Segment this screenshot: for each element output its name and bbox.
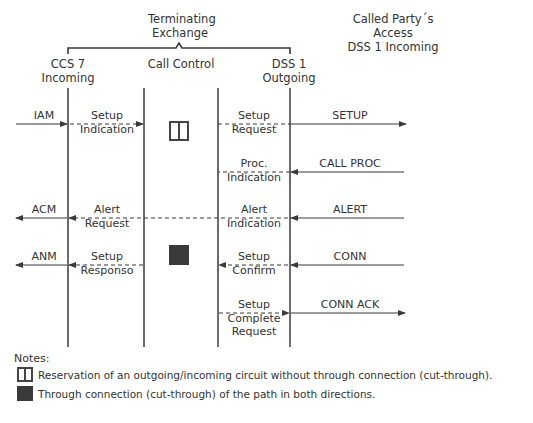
msg-line: Request: [220, 123, 288, 136]
msg-setup-confirm: Setup Confirm: [220, 250, 288, 277]
msg-line: Confirm: [220, 264, 288, 277]
called-party-label: Called Party´s Access DSS 1 Incoming: [338, 12, 448, 54]
through-connection-symbol: [169, 245, 189, 265]
msg-iam: IAM: [24, 109, 64, 122]
column-call-control-header: Call Control: [138, 57, 224, 71]
msg-acm: ACM: [24, 203, 64, 216]
msg-line: Indication: [72, 123, 142, 136]
msg-anm: ANM: [24, 250, 64, 263]
column-call-control-line1: Call Control: [138, 57, 224, 71]
msg-line: Setup: [220, 250, 288, 263]
column-ccs7-line2: Incoming: [38, 71, 98, 85]
note-text: Reservation of an outgoing/incoming circ…: [38, 369, 492, 381]
msg-conn-ack: CONN ACK: [310, 298, 390, 311]
called-party-line2: Access: [338, 26, 448, 40]
msg-setup-complete-request: Setup Complete Request: [220, 298, 288, 338]
msg-setup-indication: Setup Indication: [72, 109, 142, 136]
msg-line: Setup: [72, 250, 142, 263]
called-party-line1: Called Party´s: [338, 12, 448, 26]
filled-square-icon: [17, 386, 33, 401]
msg-line: Alert: [72, 203, 142, 216]
column-dss1-line1: DSS 1: [254, 57, 324, 71]
msg-setup-request: Setup Request: [220, 109, 288, 136]
msg-line: Request: [72, 217, 142, 230]
terminating-exchange-label: Terminating Exchange: [148, 12, 212, 40]
msg-alert-indication: Alert Indication: [220, 203, 288, 230]
note-reservation: Reservation of an outgoing/incoming circ…: [17, 367, 492, 382]
msg-line: Request: [220, 325, 288, 338]
msg-line: Indication: [220, 217, 288, 230]
msg-call-proc: CALL PROC: [310, 157, 390, 170]
msg-alert: ALERT: [315, 203, 385, 216]
msg-setup-responso: Setup Responso: [72, 250, 142, 277]
column-dss1-line2: Outgoing: [254, 71, 324, 85]
group-label-line2: Exchange: [148, 26, 212, 40]
msg-line: Setup: [220, 298, 288, 311]
reservation-symbol: [169, 121, 189, 141]
msg-proc-indication: Proc. Indication: [220, 157, 288, 184]
exchange-brace: [68, 43, 290, 54]
msg-setup: SETUP: [315, 109, 385, 122]
msg-alert-request: Alert Request: [72, 203, 142, 230]
msg-line: Complete: [220, 312, 288, 325]
notes-title: Notes:: [14, 352, 49, 365]
group-label-line1: Terminating: [148, 12, 212, 26]
column-ccs7-header: CCS 7 Incoming: [38, 57, 98, 85]
msg-line: Indication: [220, 171, 288, 184]
open-split-square-icon: [17, 367, 33, 382]
called-party-line3: DSS 1 Incoming: [338, 40, 448, 54]
column-dss1-header: DSS 1 Outgoing: [254, 57, 324, 85]
msg-line: Setup: [72, 109, 142, 122]
column-ccs7-line1: CCS 7: [38, 57, 98, 71]
msg-line: Proc.: [220, 157, 288, 170]
note-text: Through connection (cut-through) of the …: [38, 388, 375, 400]
msg-line: Setup: [220, 109, 288, 122]
note-through-connection: Through connection (cut-through) of the …: [17, 386, 375, 401]
msg-line: Alert: [220, 203, 288, 216]
msg-conn: CONN: [315, 250, 385, 263]
msg-line: Responso: [72, 264, 142, 277]
